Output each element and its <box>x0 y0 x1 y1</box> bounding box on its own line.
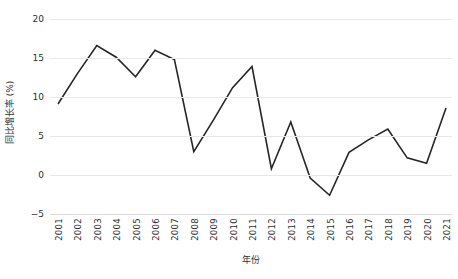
gridline <box>50 136 452 137</box>
plot-area <box>50 19 452 214</box>
x-tick-label: 2005 <box>132 218 142 241</box>
y-tick-label: 10 <box>33 92 44 102</box>
x-tick-label: 2018 <box>384 218 394 241</box>
gridline <box>50 58 452 59</box>
y-tick-label: 0 <box>38 170 44 180</box>
y-tick-label: 20 <box>33 14 44 24</box>
x-tick-label: 2021 <box>442 218 452 241</box>
x-tick-label: 2015 <box>326 218 336 241</box>
x-tick-label: 2017 <box>364 218 374 241</box>
line-chart: 同比增长率 (%) 20151050−5 2001200220032004200… <box>0 0 458 279</box>
x-tick-label: 2003 <box>93 218 103 241</box>
x-tick-label: 2007 <box>170 218 180 241</box>
x-tick-label: 2020 <box>423 218 433 241</box>
x-axis-title: 年份 <box>50 253 452 266</box>
x-tick-label: 2004 <box>112 218 122 241</box>
x-tick-label: 2013 <box>287 218 297 241</box>
clipped-caption <box>0 272 458 279</box>
y-tick-label: 5 <box>38 131 44 141</box>
series-line-svg <box>50 19 452 214</box>
x-tick-label: 2010 <box>229 218 239 241</box>
x-tick-label: 2019 <box>403 218 413 241</box>
x-axis-tick-labels: 2001200220032004200520062007200820092010… <box>50 218 452 252</box>
x-tick-label: 2009 <box>209 218 219 241</box>
gridline <box>50 19 452 20</box>
x-tick-label: 2016 <box>345 218 355 241</box>
x-tick-label: 2011 <box>248 218 258 241</box>
y-tick-label: 15 <box>33 53 44 63</box>
x-tick-label: 2002 <box>73 218 83 241</box>
y-tick-label: −5 <box>31 209 44 219</box>
x-axis-line <box>50 214 452 215</box>
x-tick-label: 2008 <box>190 218 200 241</box>
y-axis-tick-labels: 20151050−5 <box>0 0 50 279</box>
x-tick-label: 2012 <box>267 218 277 241</box>
gridline <box>50 175 452 176</box>
gridline <box>50 97 452 98</box>
series-line-path <box>58 46 446 196</box>
x-tick-label: 2001 <box>54 218 64 241</box>
x-tick-label: 2014 <box>306 218 316 241</box>
x-tick-label: 2006 <box>151 218 161 241</box>
